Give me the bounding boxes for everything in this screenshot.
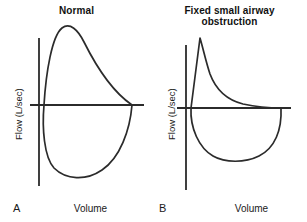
panel-b-expiratory-curve bbox=[191, 38, 281, 108]
flow-volume-loop-figure: Normal Flow (L/sec) Volume A Fixed small… bbox=[0, 0, 307, 222]
panel-b: Fixed small airway obstruction Flow (L/s… bbox=[153, 0, 306, 222]
panel-b-inspiratory-curve bbox=[191, 108, 281, 161]
panel-b-x-axis-label: Volume bbox=[175, 203, 307, 214]
panel-a-inspiratory-curve bbox=[43, 105, 132, 178]
panel-a-x-axis-label: Volume bbox=[14, 203, 167, 214]
panel-a-letter: A bbox=[13, 202, 20, 214]
panel-b-letter: B bbox=[159, 202, 166, 214]
panel-a-y-axis-label: Flow (L/sec) bbox=[14, 88, 24, 140]
panel-a-expiratory-curve bbox=[44, 26, 132, 105]
panel-b-y-axis-label: Flow (L/sec) bbox=[167, 88, 177, 140]
panel-a: Normal Flow (L/sec) Volume A bbox=[0, 0, 153, 222]
